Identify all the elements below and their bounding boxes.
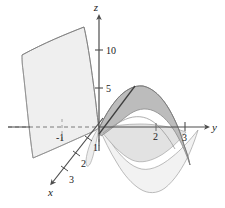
z-tick-label-5: 5 xyxy=(106,83,111,94)
negative-tick-label-minus1: -1 xyxy=(56,132,64,143)
surface-plot-svg: z 10 5 y 2 3 x 1 2 3 -1 xyxy=(0,0,225,208)
x-tick-label-2: 2 xyxy=(81,158,86,169)
x-axis-label: x xyxy=(47,186,53,198)
figure-canvas: z 10 5 y 2 3 x 1 2 3 -1 xyxy=(0,0,225,208)
z-tick-label-10: 10 xyxy=(106,45,116,56)
y-tick-label-3: 3 xyxy=(182,132,187,143)
z-axis-label: z xyxy=(93,1,99,13)
x-tick-label-3: 3 xyxy=(69,174,74,185)
y-tick-label-2: 2 xyxy=(153,131,158,142)
y-axis-label: y xyxy=(211,121,217,133)
x-tick-label-1: 1 xyxy=(93,142,98,153)
